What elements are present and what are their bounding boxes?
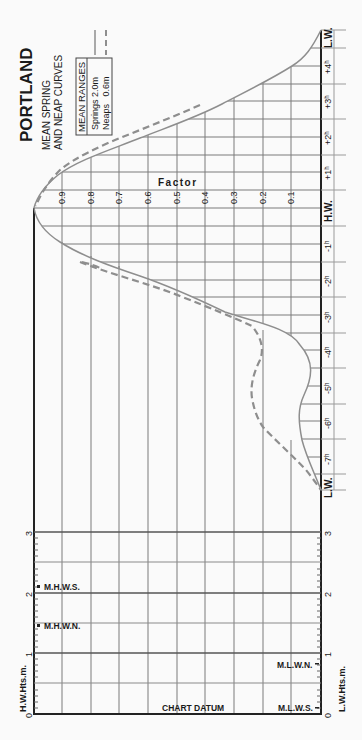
time-label: -3ʰ	[323, 311, 333, 323]
factor-tick: 0.3	[229, 191, 239, 204]
title-block: PORTLAND	[17, 48, 36, 142]
legend-heading: MEAN RANGES	[76, 62, 87, 132]
time-label: +3ʰ	[323, 95, 333, 109]
time-label: -6ʰ	[323, 417, 333, 429]
lw-height-tick: 3	[323, 531, 333, 536]
lw-height-tick: 1	[323, 652, 333, 657]
legend: MEAN RANGES Springs 2.0m Neaps 0.6m	[76, 30, 112, 135]
mlwn-label: M.L.W.N.	[277, 660, 312, 670]
time-label: -2ʰ	[323, 275, 333, 287]
title: PORTLAND	[17, 48, 36, 142]
subtitle-block: MEAN SPRING	[41, 80, 52, 150]
tidal-curve-diagram: PORTLAND MEAN SPRING AND NEAP CURVES MEA…	[0, 0, 362, 740]
time-label-lw-top: L.W.	[323, 27, 334, 48]
mlwn-marker	[315, 663, 319, 665]
time-label: -4ʰ	[323, 346, 333, 358]
mhwn-label: M.H.W.N.	[44, 621, 80, 631]
mhws-label: M.H.W.S.	[44, 582, 80, 592]
time-label: -7ʰ	[323, 453, 333, 465]
hw-axis-title: H.W.Hts.m.	[18, 665, 28, 712]
time-label: +4ʰ	[323, 60, 333, 74]
lw-axis-title: L.W.Hts.m.	[337, 666, 347, 712]
factor-grid	[20, 20, 321, 500]
factor-tick: 0.6	[143, 191, 153, 204]
lower-vertical-grid	[62, 242, 291, 714]
time-axis-labels: L.W. +4ʰ +3ʰ +2ʰ +1ʰ H.W. -1ʰ -2ʰ -3ʰ -4…	[323, 27, 334, 498]
subtitle-line-1: MEAN SPRING	[41, 80, 52, 150]
mlws-marker	[315, 707, 319, 709]
lw-height-tick: 2	[323, 592, 333, 597]
mlws-label: M.L.W.S.	[278, 703, 313, 713]
time-label-lw-bottom: L.W.	[323, 477, 334, 498]
mhws-marker	[37, 585, 40, 588]
factor-tick: 0.2	[258, 191, 268, 204]
mhwn-marker	[37, 624, 40, 627]
factor-tick: 0.5	[172, 191, 182, 204]
time-label: +2ʰ	[323, 131, 333, 145]
factor-tick: 0.9	[57, 191, 67, 204]
time-label: +1ʰ	[323, 166, 333, 180]
legend-neaps: Neaps 0.6m	[101, 76, 111, 130]
factor-tick: 0.7	[114, 191, 124, 204]
hw-height-tick: 0	[24, 713, 34, 718]
hw-height-tick: 1	[24, 652, 34, 657]
factor-tick: 0.4	[200, 191, 210, 204]
factor-tick: 0.1	[286, 191, 296, 204]
factor-tick: 0.8	[86, 191, 96, 204]
time-label-hw: H.W.	[323, 200, 334, 222]
legend-springs: Springs 2.0m	[90, 77, 100, 130]
factor-ticks: 0.9 0.8 0.7 0.6 0.5 0.4 0.3 0.2 0.1	[57, 191, 296, 204]
hw-height-tick: 3	[24, 531, 34, 536]
time-label: -5ʰ	[323, 382, 333, 394]
factor-axis-label: Factor	[158, 177, 198, 188]
subtitle-block-2: AND NEAP CURVES	[53, 54, 64, 150]
time-label: -1ʰ	[323, 240, 333, 252]
subtitle-line-2: AND NEAP CURVES	[53, 54, 64, 150]
lw-height-tick: 0	[323, 713, 333, 718]
hw-height-tick: 2	[24, 592, 34, 597]
chart-datum-label: CHART DATUM	[162, 703, 224, 713]
